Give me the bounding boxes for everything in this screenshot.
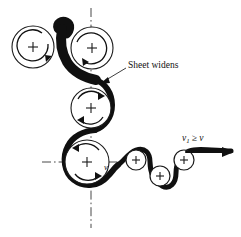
small-roller-2[interactable] xyxy=(150,166,170,186)
rollers-group: v xyxy=(12,26,194,186)
rolling-mill-diagram: v xyxy=(0,0,241,237)
sheet-widens-leader xyxy=(100,68,126,84)
exit-velocity-label: v1≥v xyxy=(182,133,204,144)
exit-velocity-sub: 1 xyxy=(186,137,189,144)
top-left-roller[interactable] xyxy=(12,26,54,68)
bottom-left-roller[interactable]: v xyxy=(65,140,109,184)
small-roller-1[interactable] xyxy=(126,150,146,170)
roller-velocity-label: v xyxy=(104,162,108,172)
figure-root: v xyxy=(0,0,241,237)
annotations-group: Sheet widens v1≥v xyxy=(100,60,234,157)
exit-velocity-relation: ≥ xyxy=(192,133,197,143)
middle-roller[interactable] xyxy=(71,88,111,128)
top-right-roller[interactable] xyxy=(71,27,113,69)
exit-velocity-ref: v xyxy=(199,133,204,143)
sheet-widens-label: Sheet widens xyxy=(128,60,179,70)
